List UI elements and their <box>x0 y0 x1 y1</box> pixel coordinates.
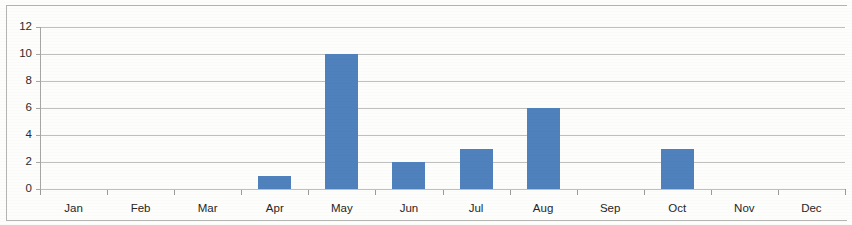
gridline <box>40 81 845 82</box>
y-axis-tick-label: 2 <box>6 156 32 168</box>
y-axis-tick <box>36 162 41 163</box>
x-axis-tick <box>375 190 376 195</box>
y-axis-tick-label: 12 <box>6 21 32 33</box>
x-axis-tick <box>241 190 242 195</box>
x-axis-tick <box>308 190 309 195</box>
x-axis-category-label: May <box>308 199 375 219</box>
x-axis-labels: JanFebMarAprMayJunJulAugSepOctNovDec <box>40 199 845 219</box>
y-axis-tick <box>36 54 41 55</box>
bar <box>460 149 493 190</box>
x-axis-category-label: Aug <box>510 199 577 219</box>
x-axis-category-label: Jul <box>442 199 509 219</box>
plot-area <box>40 27 845 189</box>
y-axis-tick-label: 6 <box>6 102 32 114</box>
y-axis-tick-label: 0 <box>6 183 32 195</box>
bar <box>392 162 425 189</box>
x-axis-category-label: Sep <box>577 199 644 219</box>
x-axis-category-label: Feb <box>107 199 174 219</box>
bar <box>258 176 291 190</box>
x-axis-tick <box>174 190 175 195</box>
bar <box>661 149 694 190</box>
y-axis-labels: 024681012 <box>0 0 32 225</box>
gridline <box>40 162 845 163</box>
x-axis-category-label: Jun <box>375 199 442 219</box>
gridline <box>40 135 845 136</box>
gridline <box>40 54 845 55</box>
x-axis-category-label: Jan <box>40 199 107 219</box>
x-axis-tick <box>644 190 645 195</box>
x-axis-tick <box>510 190 511 195</box>
x-axis-category-label: Oct <box>644 199 711 219</box>
y-axis-tick <box>36 81 41 82</box>
x-axis-tick <box>711 190 712 195</box>
y-axis-tick-label: 8 <box>6 75 32 87</box>
bar <box>527 108 560 189</box>
y-axis-tick-label: 4 <box>6 129 32 141</box>
y-axis-tick <box>36 108 41 109</box>
x-axis-category-label: Mar <box>174 199 241 219</box>
x-axis-category-label: Dec <box>778 199 845 219</box>
x-axis-category-label: Apr <box>241 199 308 219</box>
x-axis-tick <box>845 190 846 195</box>
gridline <box>40 108 845 109</box>
y-axis-tick <box>36 27 41 28</box>
x-axis-tick <box>577 190 578 195</box>
x-axis-tick <box>40 190 41 195</box>
y-axis-tick-label: 10 <box>6 48 32 60</box>
x-axis-category-label: Nov <box>711 199 778 219</box>
x-axis-tick <box>107 190 108 195</box>
gridline <box>40 27 845 28</box>
y-axis-tick <box>36 135 41 136</box>
x-axis-tick <box>443 190 444 195</box>
bar <box>325 54 358 189</box>
x-axis-tick <box>778 190 779 195</box>
bar-chart: 024681012 JanFebMarAprMayJunJulAugSepOct… <box>0 0 852 225</box>
